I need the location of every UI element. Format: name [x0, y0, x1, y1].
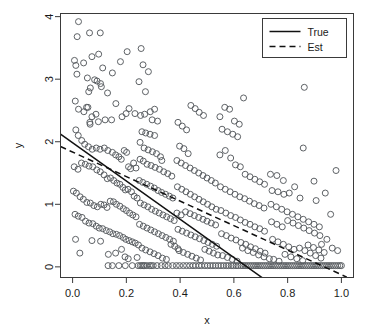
data-point: [322, 190, 328, 196]
data-point: [196, 109, 202, 115]
data-point: [103, 228, 109, 234]
data-point: [236, 121, 242, 127]
data-point: [279, 224, 285, 230]
x-tick-label: 0.6: [226, 287, 241, 299]
data-point: [74, 34, 80, 40]
data-point: [109, 117, 115, 123]
data-point: [217, 114, 223, 120]
data-point: [163, 234, 169, 240]
x-tick-label: 0.8: [280, 287, 295, 299]
data-point: [119, 246, 125, 252]
data-point: [98, 238, 104, 244]
data-point: [319, 241, 325, 247]
data-point: [328, 211, 334, 217]
data-point: [72, 98, 78, 104]
data-point: [136, 79, 142, 85]
data-point: [97, 169, 103, 175]
data-point: [109, 263, 115, 269]
chart-figure: 0.00.20.40.60.81.001234xyTrueEst: [0, 0, 370, 336]
data-point: [163, 256, 169, 262]
data-point: [105, 90, 111, 96]
x-axis-title: x: [204, 314, 210, 326]
data-point: [156, 210, 162, 216]
data-point: [300, 145, 306, 151]
y-tick-label: 0: [44, 264, 56, 270]
data-point: [222, 148, 228, 154]
data-point: [152, 208, 158, 214]
data-point: [123, 111, 129, 117]
data-point: [267, 171, 273, 177]
data-point: [158, 154, 164, 160]
x-tick-label: 1.0: [334, 287, 349, 299]
data-point: [76, 19, 82, 25]
data-point: [159, 233, 165, 239]
data-point: [138, 112, 144, 118]
data-point: [324, 236, 330, 242]
y-tick-label: 3: [44, 76, 56, 82]
data-point: [87, 85, 93, 91]
data-point: [82, 161, 88, 167]
data-point: [134, 254, 140, 260]
data-point: [160, 212, 166, 218]
data-point: [100, 226, 106, 232]
data-point: [105, 251, 111, 257]
data-point: [142, 89, 148, 95]
data-point: [188, 102, 194, 108]
data-point: [185, 151, 191, 157]
data-point: [78, 160, 84, 166]
data-point: [275, 189, 281, 195]
y-tick-label: 1: [44, 201, 56, 207]
data-point: [113, 101, 119, 107]
data-point: [83, 218, 89, 224]
data-point: [89, 238, 95, 244]
legend-label-true: True: [308, 26, 329, 38]
data-point: [74, 71, 80, 77]
data-point: [139, 129, 145, 135]
data-point: [329, 245, 335, 251]
data-point: [90, 164, 96, 170]
data-point: [86, 89, 92, 95]
data-point: [166, 193, 172, 199]
data-point: [97, 30, 103, 36]
data-point: [297, 195, 303, 201]
data-point: [79, 214, 85, 220]
data-point: [318, 255, 324, 261]
data-point: [140, 223, 146, 229]
data-point: [201, 112, 207, 118]
data-point: [102, 117, 108, 123]
data-point: [159, 158, 165, 164]
data-point: [313, 198, 319, 204]
data-point: [145, 69, 151, 75]
data-point: [96, 51, 102, 57]
data-point: [137, 139, 143, 145]
data-point: [288, 254, 294, 260]
data-point: [142, 111, 148, 117]
x-tick-label: 0.2: [119, 287, 134, 299]
data-point: [77, 250, 83, 256]
data-point: [317, 233, 323, 239]
data-point: [235, 134, 241, 140]
data-point: [144, 161, 150, 167]
data-point: [100, 65, 106, 71]
data-point: [167, 216, 173, 222]
data-point: [117, 59, 123, 65]
data-point: [152, 229, 158, 235]
data-point: [333, 168, 339, 174]
data-point: [137, 221, 143, 227]
data-point: [140, 62, 146, 68]
data-point: [101, 172, 107, 178]
data-point: [113, 250, 119, 256]
data-point: [116, 263, 122, 269]
data-point: [164, 214, 170, 220]
data-point: [217, 152, 223, 158]
data-point: [141, 202, 147, 208]
data-point: [81, 60, 87, 66]
data-point: [281, 191, 287, 197]
data-point: [316, 224, 322, 230]
data-point: [95, 119, 101, 125]
legend-label-est: Est: [308, 41, 323, 53]
data-point: [311, 178, 317, 184]
y-axis-title: y: [12, 142, 24, 148]
data-point: [321, 249, 327, 255]
data-point: [274, 173, 280, 179]
